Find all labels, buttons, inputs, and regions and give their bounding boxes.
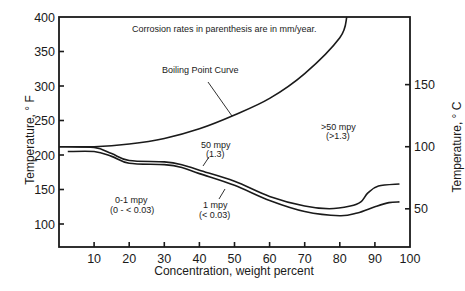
- y-tick-label: 250: [34, 114, 55, 128]
- 1mpy-sub-label: (< 0.03): [199, 210, 230, 220]
- 1mpy-leader-line: [219, 189, 225, 199]
- 0-1mpy-sub-label: (0 - < 0.03): [110, 205, 154, 215]
- y-tick-label: 350: [34, 45, 55, 59]
- x-tick-label: 80: [333, 252, 347, 266]
- x-tick-label: 100: [400, 252, 421, 266]
- x-axis-title: Concentration, weight percent: [154, 264, 314, 278]
- y-tick-label: 100: [34, 218, 55, 232]
- y-axis-title-left: Temperature, ° F: [23, 95, 37, 185]
- y-tick-label-right: 100: [414, 140, 435, 154]
- corrosion-chart: 102030405060708090100 100150200250300350…: [0, 0, 465, 291]
- boiling-curve-label: Boiling Point Curve: [162, 65, 239, 75]
- y-tick-label: 400: [34, 11, 55, 25]
- 50mpy-sub-label: (1.3): [206, 149, 225, 159]
- boiling-point-curve: [59, 17, 347, 147]
- y-tick-label-right: 50: [414, 202, 428, 216]
- x-axis-ticks: 102030405060708090100: [87, 242, 420, 266]
- x-tick-label: 10: [87, 252, 101, 266]
- 0-1mpy-label: 0-1 mpy: [115, 195, 148, 205]
- x-tick-label: 90: [368, 252, 382, 266]
- x-tick-label: 20: [122, 252, 136, 266]
- y-tick-label-right: 150: [414, 78, 435, 92]
- 1mpy-label: 1 mpy: [203, 200, 228, 210]
- chart-note: Corrosion rates in parenthesis are in mm…: [132, 24, 317, 34]
- y-tick-label: 300: [34, 80, 55, 94]
- y-axis-title-right: Temperature, ° C: [450, 101, 464, 192]
- boiling-leader-line: [208, 82, 232, 116]
- curves: [59, 17, 399, 216]
- y-tick-label: 200: [34, 149, 55, 163]
- gt50mpy-sub-label: (>1.3): [326, 131, 350, 141]
- y-tick-label: 150: [34, 183, 55, 197]
